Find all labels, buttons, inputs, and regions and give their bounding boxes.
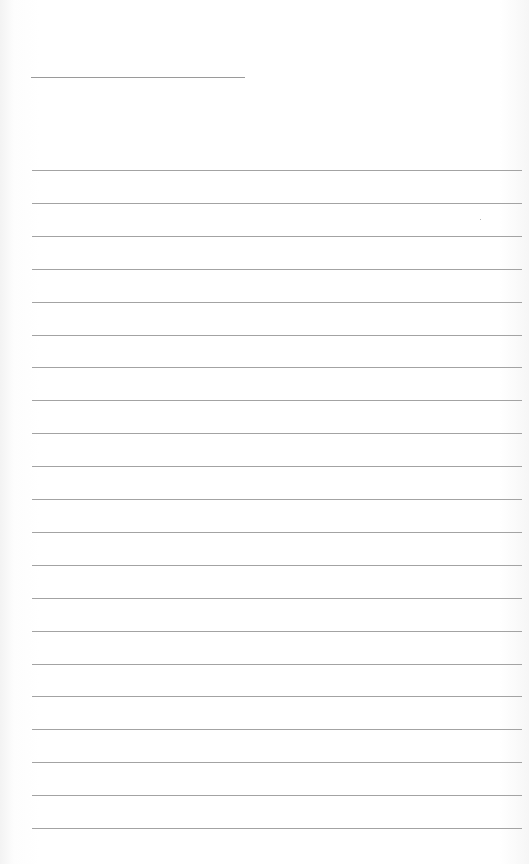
paper-speck [480,219,481,220]
ruled-line [32,203,522,204]
ruled-line [32,269,522,270]
ruled-line [32,236,522,237]
ruled-line [32,795,522,796]
ruled-line [32,828,522,829]
ruled-lines-area [32,0,522,864]
ruled-line [32,302,522,303]
ruled-line [32,170,522,171]
ruled-line [32,762,522,763]
ruled-line [32,433,522,434]
ruled-line [32,664,522,665]
ruled-line [32,598,522,599]
ruled-line [32,729,522,730]
ruled-line [32,696,522,697]
ruled-line [32,335,522,336]
lined-page [0,0,529,864]
ruled-line [32,565,522,566]
ruled-line [32,532,522,533]
ruled-line [32,367,522,368]
ruled-line [32,400,522,401]
ruled-line [32,631,522,632]
ruled-line [32,466,522,467]
ruled-line [32,499,522,500]
